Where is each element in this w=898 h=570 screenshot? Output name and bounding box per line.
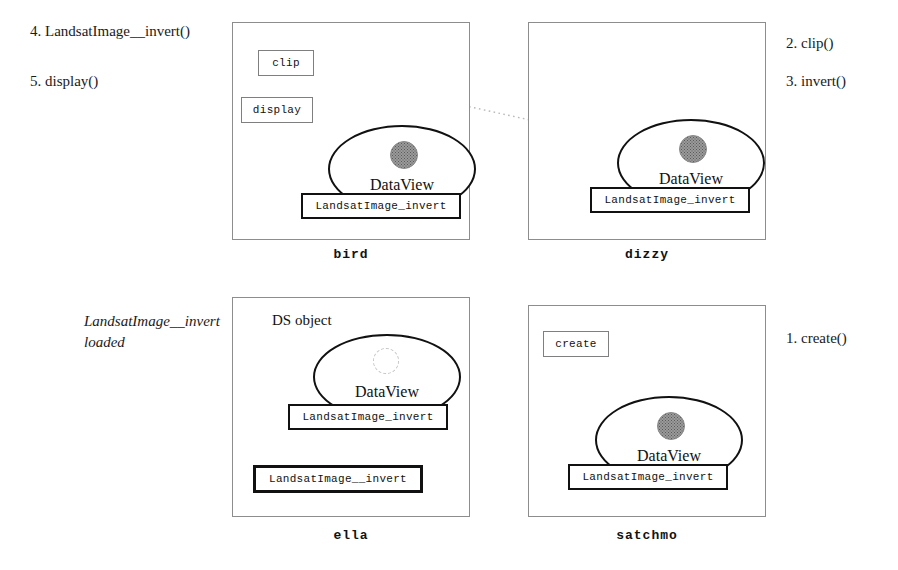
display-message-plate[interactable]: display xyxy=(241,97,313,123)
step-2-label: 2. clip() xyxy=(786,35,833,52)
dataview-label: DataView xyxy=(597,447,741,465)
loaded-note-line1: LandsatImage__invert xyxy=(84,313,220,330)
ds-object-label: DS object xyxy=(272,312,332,329)
dataview-label: DataView xyxy=(619,170,763,188)
object-blob-icon xyxy=(390,141,418,169)
host-name-satchmo: satchmo xyxy=(528,528,766,543)
dataview-label: DataView xyxy=(315,383,459,401)
method-plate-landsatimage-invert[interactable]: LandsatImage_invert xyxy=(568,464,728,490)
create-message-plate[interactable]: create xyxy=(543,331,609,357)
step-4-label: 4. LandsatImage__invert() xyxy=(30,23,190,40)
loaded-method-plate[interactable]: LandsatImage__invert xyxy=(253,465,423,493)
host-box-ella: DS object DataView LandsatImage_invert L… xyxy=(232,297,470,517)
object-blob-icon xyxy=(679,135,707,163)
host-box-bird: clip display DataView LandsatImage_inver… xyxy=(232,22,470,240)
loaded-note-line2: loaded xyxy=(84,334,125,351)
diagram-canvas: 4. LandsatImage__invert() 5. display() L… xyxy=(0,0,898,570)
method-plate-landsatimage-invert[interactable]: LandsatImage_invert xyxy=(590,187,750,213)
host-box-dizzy: DataView LandsatImage_invert xyxy=(528,22,766,240)
step-3-label: 3. invert() xyxy=(786,73,846,90)
method-plate-landsatimage-invert[interactable]: LandsatImage_invert xyxy=(288,404,448,430)
host-name-bird: bird xyxy=(232,247,470,262)
clip-message-plate[interactable]: clip xyxy=(258,50,314,76)
host-name-dizzy: dizzy xyxy=(528,247,766,262)
dataview-label: DataView xyxy=(330,176,474,194)
host-box-satchmo: create DataView LandsatImage_invert xyxy=(528,305,766,517)
method-plate-landsatimage-invert[interactable]: LandsatImage_invert xyxy=(301,193,461,219)
object-blob-icon xyxy=(657,412,685,440)
step-5-label: 5. display() xyxy=(30,73,98,90)
host-name-ella: ella xyxy=(232,528,470,543)
step-1-label: 1. create() xyxy=(786,330,847,347)
object-blob-icon xyxy=(373,348,399,374)
